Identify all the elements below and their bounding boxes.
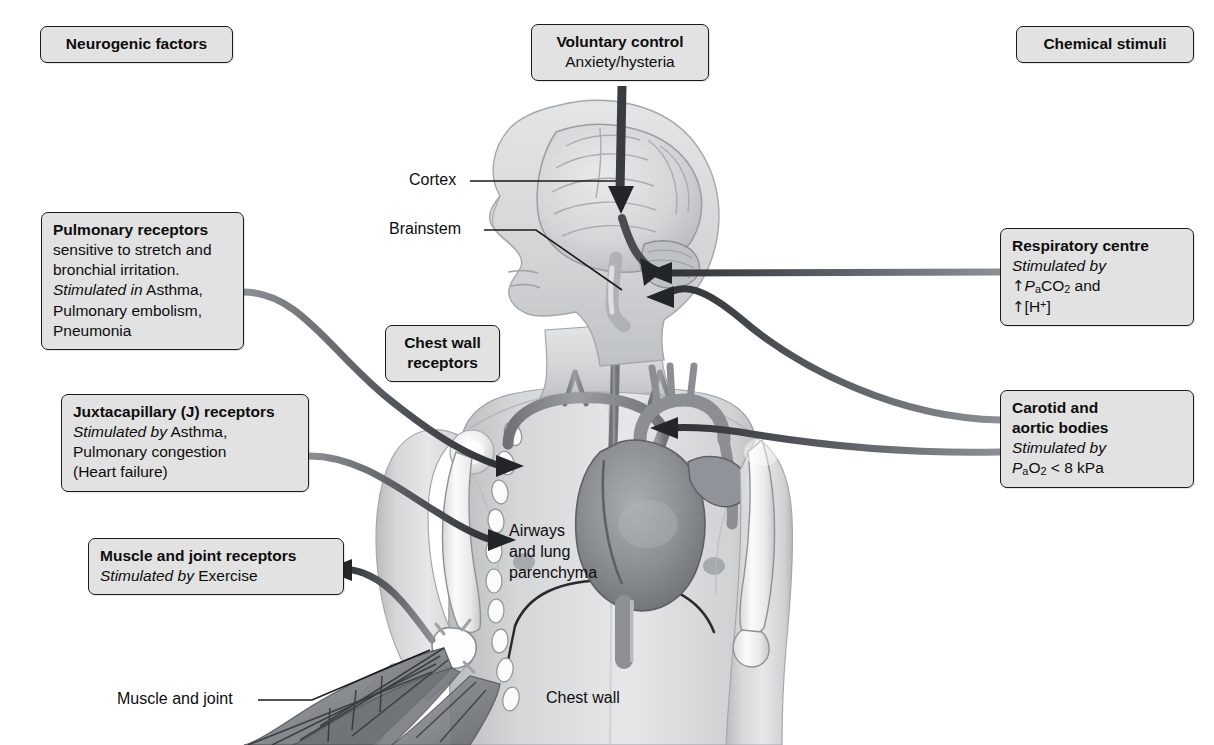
muscle-joint-heading: Muscle and joint receptors — [100, 546, 332, 566]
up-arrow-icon-hplus: ↑ — [1012, 298, 1025, 316]
up-arrow-icon-paco2: ↑ — [1012, 277, 1025, 295]
label-cortex: Cortex — [409, 170, 456, 191]
pulmonary-receptors-stimulated-rest: Asthma, — [146, 281, 203, 298]
box-carotid-and-aortic-bodies: Carotid and aortic bodies Stimulated by … — [1000, 390, 1194, 488]
pao2-gas: O — [1028, 459, 1040, 476]
pulmonary-receptors-line3: Stimulated in Asthma, — [53, 280, 232, 300]
respiratory-centre-hplus: ↑[H+] — [1012, 297, 1182, 318]
diagram-canvas: Neurogenic factors Chemical stimuli Volu… — [0, 0, 1214, 745]
respiratory-centre-heading: Respiratory centre — [1012, 236, 1182, 256]
carotid-pao2: PaO2 < 8 kPa — [1012, 458, 1182, 478]
leader-lines — [0, 0, 1214, 745]
header-neurogenic-label: Neurogenic factors — [66, 35, 207, 52]
juxtacapillary-line3: (Heart failure) — [73, 462, 297, 482]
pulmonary-receptors-line5: Pneumonia — [53, 321, 232, 341]
label-brainstem: Brainstem — [389, 219, 461, 240]
label-airways-and-lung-parenchyma: Airways and lung parenchyma — [509, 521, 629, 583]
juxtacapillary-line1: Stimulated by Asthma, — [73, 422, 297, 442]
pao2-p: P — [1012, 459, 1022, 476]
box-chest-wall-receptors: Chest wall receptors — [385, 325, 500, 382]
juxtacapillary-heading: Juxtacapillary (J) receptors — [73, 402, 297, 422]
header-neurogenic-factors: Neurogenic factors — [40, 26, 233, 63]
juxtacapillary-stimulated-rest: Asthma, — [170, 423, 227, 440]
carotid-heading-line2: aortic bodies — [1012, 418, 1182, 438]
box-juxtacapillary-receptors: Juxtacapillary (J) receptors Stimulated … — [61, 394, 309, 492]
box-muscle-and-joint-receptors: Muscle and joint receptors Stimulated by… — [88, 538, 344, 595]
juxtacapillary-line2: Pulmonary congestion — [73, 442, 297, 462]
label-chest-wall: Chest wall — [546, 688, 620, 709]
airways-line3: parenchyma — [509, 563, 629, 584]
pulmonary-receptors-line2: bronchial irritation. — [53, 260, 232, 280]
carotid-heading-line1: Carotid and — [1012, 398, 1182, 418]
pulmonary-receptors-line1: sensitive to stretch and — [53, 240, 232, 260]
header-chemical-stimuli: Chemical stimuli — [1016, 26, 1194, 63]
airways-line1: Airways — [509, 521, 629, 542]
paco2-gas: CO — [1041, 277, 1064, 294]
hplus-text: [H — [1025, 298, 1041, 315]
muscle-joint-stimulated-em: Stimulated by — [100, 567, 194, 584]
chest-wall-receptors-line2: receptors — [397, 353, 488, 373]
box-respiratory-centre: Respiratory centre Stimulated by ↑PaCO2 … — [1000, 228, 1194, 326]
respiratory-centre-paco2: ↑PaCO2 and — [1012, 276, 1182, 297]
hplus-tail: ] — [1046, 298, 1050, 315]
paco2-p: P — [1025, 277, 1035, 294]
paco2-tail: and — [1070, 277, 1100, 294]
juxtacapillary-stimulated-em: Stimulated by — [73, 423, 167, 440]
header-chemical-label: Chemical stimuli — [1043, 35, 1166, 52]
carotid-stimulated: Stimulated by — [1012, 438, 1182, 458]
pulmonary-receptors-heading: Pulmonary receptors — [53, 220, 232, 240]
label-muscle-and-joint: Muscle and joint — [117, 689, 233, 710]
leader-muscle-and-joint — [258, 650, 430, 700]
pao2-tail: < 8 kPa — [1046, 459, 1103, 476]
chest-wall-receptors-line1: Chest wall — [397, 333, 488, 353]
airways-line2: and lung — [509, 542, 629, 563]
box-pulmonary-receptors: Pulmonary receptors sensitive to stretch… — [41, 212, 244, 350]
box-voluntary-control: Voluntary control Anxiety/hysteria — [531, 24, 709, 81]
muscle-joint-line1: Stimulated by Exercise — [100, 566, 332, 586]
voluntary-control-line1: Anxiety/hysteria — [543, 52, 697, 72]
leader-brainstem — [484, 230, 622, 290]
respiratory-centre-stimulated: Stimulated by — [1012, 256, 1182, 276]
voluntary-control-heading: Voluntary control — [543, 32, 697, 52]
pulmonary-receptors-stimulated-em: Stimulated in — [53, 281, 143, 298]
pulmonary-receptors-line4: Pulmonary embolism, — [53, 301, 232, 321]
muscle-joint-stimulated-rest: Exercise — [198, 567, 257, 584]
